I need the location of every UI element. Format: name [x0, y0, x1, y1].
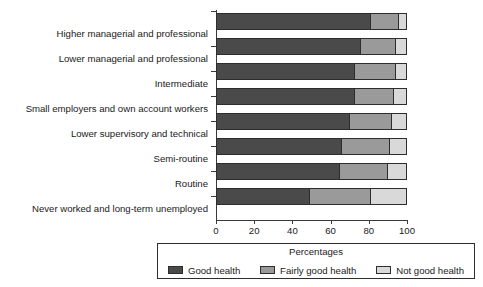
bar-row [216, 113, 407, 130]
legend-items: Good health Fairly good health Not good … [158, 262, 474, 278]
bar-row [216, 138, 407, 155]
legend-label-not-good-health: Not good health [396, 265, 464, 276]
y-axis-category-labels: Higher managerial and professional Lower… [0, 8, 212, 220]
y-axis-label-6: Routine [175, 177, 208, 191]
bar-segment[interactable] [387, 163, 407, 180]
legend-swatch-good-health [168, 266, 183, 274]
bar-segment[interactable] [216, 88, 355, 105]
legend-swatch-fairly-good-health [260, 266, 275, 274]
plot-area: Higher managerial and professional Lower… [0, 8, 483, 236]
bar-segment[interactable] [216, 138, 342, 155]
bar-segment[interactable] [339, 163, 388, 180]
legend-label-good-health: Good health [188, 265, 240, 276]
stacked-bar-chart: Higher managerial and professional Lower… [0, 0, 483, 287]
chart-legend: Percentages Good health Fairly good heal… [157, 243, 475, 279]
y-axis-label-2: Intermediate [155, 77, 208, 91]
bar-segment[interactable] [395, 38, 407, 55]
bar-row [216, 163, 407, 180]
legend-label-fairly-good-health: Fairly good health [280, 265, 356, 276]
bar-segment[interactable] [360, 38, 395, 55]
bar-row [216, 188, 407, 205]
bar-segment[interactable] [216, 188, 310, 205]
bar-row [216, 38, 407, 55]
legend-swatch-not-good-health [376, 266, 391, 274]
bars-layer [216, 8, 408, 220]
bar-segment[interactable] [398, 13, 407, 30]
bar-segment[interactable] [341, 138, 390, 155]
x-axis-tick [254, 220, 255, 224]
y-axis-label-3: Small employers and own account workers [26, 102, 208, 116]
bar-segment[interactable] [370, 13, 400, 30]
y-axis-label-1: Lower managerial and professional [59, 52, 208, 66]
bar-segment[interactable] [354, 88, 393, 105]
x-axis-tick [369, 220, 370, 224]
bar-row [216, 63, 407, 80]
bar-row [216, 88, 407, 105]
x-axis-line [216, 220, 407, 221]
x-axis-tick [216, 220, 217, 224]
bar-segment[interactable] [391, 113, 407, 130]
y-axis-label-4: Lower supervisory and technical [71, 127, 208, 141]
bar-segment[interactable] [216, 13, 371, 30]
x-axis-tick-label: 0 [196, 225, 236, 236]
y-axis-label-5: Semi-routine [154, 152, 208, 166]
bar-segment[interactable] [216, 163, 340, 180]
bar-row [216, 13, 407, 30]
bar-segment[interactable] [389, 138, 407, 155]
y-axis-label-7: Never worked and long-term unemployed [32, 202, 208, 216]
y-axis-label-0: Higher managerial and professional [57, 27, 208, 41]
bar-segment[interactable] [395, 63, 407, 80]
x-axis-tick [407, 220, 408, 224]
x-axis-tick-label: 80 [349, 225, 389, 236]
bar-segment[interactable] [370, 188, 407, 205]
x-axis-tick-label: 100 [387, 225, 427, 236]
bar-segment[interactable] [354, 63, 395, 80]
x-axis-tick-label: 60 [311, 225, 351, 236]
bar-segment[interactable] [349, 113, 392, 130]
bar-segment[interactable] [393, 88, 407, 105]
legend-item-fairly-good-health[interactable]: Fairly good health [260, 265, 356, 276]
x-axis-tick-label: 40 [272, 225, 312, 236]
bar-segment[interactable] [309, 188, 371, 205]
legend-title: Percentages [158, 246, 474, 257]
bar-segment[interactable] [216, 38, 361, 55]
legend-item-good-health[interactable]: Good health [168, 265, 240, 276]
bar-segment[interactable] [216, 113, 350, 130]
x-axis-tick [331, 220, 332, 224]
legend-item-not-good-health[interactable]: Not good health [376, 265, 464, 276]
x-axis-tick-label: 20 [234, 225, 274, 236]
bar-segment[interactable] [216, 63, 355, 80]
x-axis-tick [292, 220, 293, 224]
